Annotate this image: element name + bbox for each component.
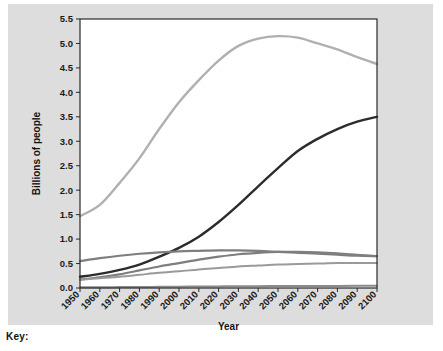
x-tick-label: 1960 xyxy=(78,289,101,312)
x-tick-label: 2060 xyxy=(276,289,299,312)
key-label: Key: xyxy=(6,331,28,342)
x-tick-label: 1990 xyxy=(138,289,161,312)
y-tick-label: 2.0 xyxy=(60,185,73,196)
y-axis: 0.00.51.01.52.02.53.03.54.04.55.05.5 xyxy=(60,13,80,293)
y-tick-label: 4.0 xyxy=(60,87,73,98)
plot-area-background xyxy=(80,19,377,288)
y-tick-label: 1.5 xyxy=(60,209,74,220)
y-tick-label: 3.0 xyxy=(60,136,73,147)
y-tick-label: 2.5 xyxy=(60,160,74,171)
x-axis: 1950196019701980199020002010202020302040… xyxy=(59,288,379,311)
y-tick-label: 5.0 xyxy=(60,38,73,49)
y-tick-label: 1.0 xyxy=(60,233,73,244)
y-axis-title: Billions of people xyxy=(31,111,42,195)
x-axis-title: Year xyxy=(218,321,239,332)
x-tick-label: 1980 xyxy=(118,289,141,312)
y-tick-label: 5.5 xyxy=(60,13,74,24)
x-tick-label: 2100 xyxy=(356,289,379,312)
x-tick-label: 2040 xyxy=(237,289,260,312)
x-tick-label: 2010 xyxy=(177,289,200,312)
y-tick-label: 4.5 xyxy=(60,62,74,73)
line-chart: 0.00.51.01.52.02.53.03.54.04.55.05.5 195… xyxy=(0,0,443,351)
x-tick-label: 2070 xyxy=(296,289,319,312)
x-tick-label: 2050 xyxy=(257,289,280,312)
x-tick-label: 2080 xyxy=(316,289,339,312)
y-tick-label: 3.5 xyxy=(60,111,74,122)
x-tick-label: 2030 xyxy=(217,289,240,312)
x-tick-label: 1970 xyxy=(98,289,121,312)
x-tick-label: 2000 xyxy=(158,289,181,312)
chart-figure: 0.00.51.01.52.02.53.03.54.04.55.05.5 195… xyxy=(0,0,443,351)
x-tick-label: 2020 xyxy=(197,289,220,312)
x-tick-label: 2090 xyxy=(336,289,359,312)
y-tick-label: 0.5 xyxy=(60,258,74,269)
